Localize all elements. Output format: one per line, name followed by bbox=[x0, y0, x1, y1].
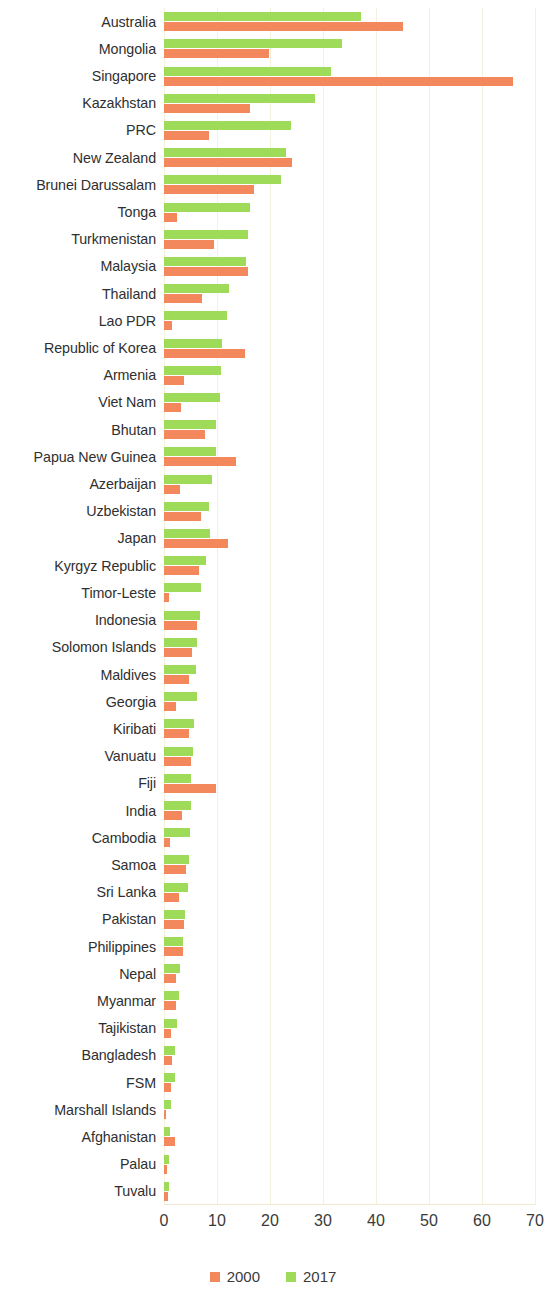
bar-2017 bbox=[164, 447, 216, 456]
bar-row bbox=[164, 824, 535, 851]
bar-2000 bbox=[164, 621, 197, 630]
bar-2000 bbox=[164, 485, 180, 494]
bar-2000 bbox=[164, 430, 205, 439]
category-label: Japan bbox=[118, 531, 156, 545]
bar-row bbox=[164, 579, 535, 606]
bar-row bbox=[164, 879, 535, 906]
bar-2017 bbox=[164, 257, 246, 266]
bar-2017 bbox=[164, 638, 197, 647]
bar-2017 bbox=[164, 828, 190, 837]
bar-2017 bbox=[164, 420, 216, 429]
bar-2017 bbox=[164, 393, 220, 402]
category-label: PRC bbox=[126, 123, 156, 137]
bar-2000 bbox=[164, 77, 513, 86]
bar-2000 bbox=[164, 648, 192, 657]
x-tick-label: 70 bbox=[526, 1212, 544, 1230]
bar-2000 bbox=[164, 294, 202, 303]
bar-2000 bbox=[164, 1192, 168, 1201]
category-label: Pakistan bbox=[102, 912, 156, 926]
category-label: Australia bbox=[101, 15, 156, 29]
legend-item[interactable]: 2017 bbox=[286, 1268, 336, 1285]
bar-row bbox=[164, 253, 535, 280]
category-label: Uzbekistan bbox=[86, 504, 156, 518]
bar-2000 bbox=[164, 49, 269, 58]
bar-row bbox=[164, 1178, 535, 1205]
bar-2000 bbox=[164, 403, 181, 412]
x-tick-label: 30 bbox=[314, 1212, 332, 1230]
category-label: Bangladesh bbox=[81, 1048, 156, 1062]
bar-row bbox=[164, 743, 535, 770]
bar-row bbox=[164, 144, 535, 171]
bar-2000 bbox=[164, 539, 228, 548]
category-label: Maldives bbox=[100, 668, 156, 682]
chart-legend: 20002017 bbox=[0, 1268, 546, 1285]
category-label: Solomon Islands bbox=[52, 640, 156, 654]
category-label: Samoa bbox=[111, 858, 156, 872]
bar-2017 bbox=[164, 665, 196, 674]
bar-row bbox=[164, 1042, 535, 1069]
bar-2017 bbox=[164, 203, 250, 212]
bar-2017 bbox=[164, 39, 342, 48]
bar-2000 bbox=[164, 240, 214, 249]
category-label: New Zealand bbox=[73, 151, 156, 165]
category-label: Afghanistan bbox=[82, 1130, 156, 1144]
bar-row bbox=[164, 117, 535, 144]
bar-row bbox=[164, 470, 535, 497]
bar-row bbox=[164, 851, 535, 878]
bar-2017 bbox=[164, 230, 248, 239]
category-label: Kazakhstan bbox=[82, 96, 156, 110]
bar-2017 bbox=[164, 121, 291, 130]
category-label: India bbox=[125, 804, 156, 818]
category-label: Malaysia bbox=[100, 259, 156, 273]
bar-2000 bbox=[164, 675, 189, 684]
x-tick-label: 60 bbox=[473, 1212, 491, 1230]
category-label: Bhutan bbox=[111, 423, 156, 437]
category-label: Fiji bbox=[138, 776, 156, 790]
bar-2017 bbox=[164, 1127, 170, 1136]
bar-row bbox=[164, 1015, 535, 1042]
category-label: Tuvalu bbox=[114, 1184, 156, 1198]
category-label: Kyrgyz Republic bbox=[54, 559, 156, 573]
bar-2017 bbox=[164, 67, 331, 76]
category-label: Timor-Leste bbox=[81, 586, 156, 600]
bar-2017 bbox=[164, 910, 185, 919]
bar-2017 bbox=[164, 583, 201, 592]
category-label: Lao PDR bbox=[99, 314, 156, 328]
bar-2000 bbox=[164, 457, 236, 466]
bar-row bbox=[164, 552, 535, 579]
category-label: Georgia bbox=[106, 695, 156, 709]
bar-row bbox=[164, 8, 535, 35]
legend-item[interactable]: 2000 bbox=[210, 1268, 260, 1285]
category-label: Tonga bbox=[118, 205, 156, 219]
x-tick-label: 50 bbox=[420, 1212, 438, 1230]
bar-2000 bbox=[164, 1056, 172, 1065]
bar-2017 bbox=[164, 883, 188, 892]
bar-2017 bbox=[164, 774, 191, 783]
bar-2017 bbox=[164, 366, 221, 375]
bar-2000 bbox=[164, 566, 199, 575]
bar-chart: AustraliaMongoliaSingaporeKazakhstanPRCN… bbox=[0, 0, 546, 1299]
category-label: Palau bbox=[120, 1157, 156, 1171]
category-label: Myanmar bbox=[97, 994, 156, 1008]
category-label: Thailand bbox=[102, 287, 156, 301]
bar-2017 bbox=[164, 148, 286, 157]
bar-row bbox=[164, 416, 535, 443]
bar-2017 bbox=[164, 991, 179, 1000]
x-tick-label: 0 bbox=[160, 1212, 169, 1230]
x-tick-label: 40 bbox=[367, 1212, 385, 1230]
bar-2000 bbox=[164, 947, 183, 956]
category-label: Republic of Korea bbox=[44, 341, 156, 355]
category-label: Azerbaijan bbox=[89, 477, 156, 491]
bar-row bbox=[164, 226, 535, 253]
bar-2017 bbox=[164, 1073, 175, 1082]
bar-2017 bbox=[164, 1046, 175, 1055]
category-label: Turkmenistan bbox=[71, 232, 156, 246]
bar-row bbox=[164, 498, 535, 525]
x-tick-label: 20 bbox=[261, 1212, 279, 1230]
category-label: Viet Nam bbox=[98, 395, 156, 409]
category-label: Armenia bbox=[103, 368, 156, 382]
bar-row bbox=[164, 987, 535, 1014]
bar-2000 bbox=[164, 22, 403, 31]
bar-row bbox=[164, 1151, 535, 1178]
category-label: Indonesia bbox=[95, 613, 156, 627]
